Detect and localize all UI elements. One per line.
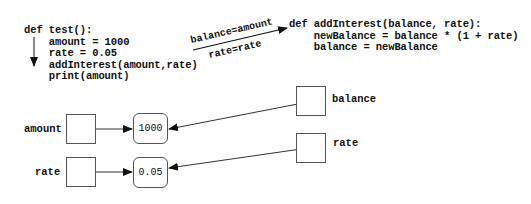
parameter-passing-diagram: def test(): amount = 1000 rate = 0.05 ad… — [0, 0, 531, 204]
variable-label-balance: balance — [332, 93, 376, 105]
code-line: def test(): — [24, 25, 92, 37]
code-line: print(amount) — [24, 71, 129, 83]
variable-label-rate: rate — [35, 166, 60, 178]
variable-box-rate — [66, 157, 96, 187]
variable-box-balance — [296, 86, 326, 116]
variable-box-callee-rate — [296, 133, 326, 163]
variable-label-callee-rate: rate — [333, 137, 358, 149]
value-box-1000: 1000 — [133, 113, 168, 144]
code-line: def addInterest(balance, rate): — [289, 19, 481, 31]
variable-label-amount: amount — [24, 123, 62, 135]
value-box-005: 0.05 — [133, 157, 168, 188]
variable-box-amount — [66, 114, 96, 144]
code-line: balance = newBalance — [289, 42, 438, 54]
